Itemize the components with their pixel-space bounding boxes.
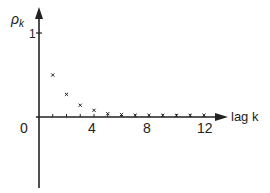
data-point-x-marker <box>79 104 82 107</box>
x-tick-label-8: 8 <box>143 120 151 136</box>
x-tick-label-4: 4 <box>88 120 96 136</box>
x-axis-arrow-icon <box>215 113 228 121</box>
data-point-x-marker <box>51 73 54 76</box>
data-points <box>51 73 205 117</box>
origin-label: 0 <box>20 120 28 136</box>
y-tick-label-1: 1 <box>29 27 36 41</box>
x-axis-label: lag k <box>231 109 259 124</box>
data-point-x-marker <box>65 93 68 96</box>
data-point-x-marker <box>92 109 95 112</box>
y-axis-label: ρk <box>10 11 25 29</box>
y-axis-arrow-icon <box>35 7 43 19</box>
x-tick-label-12: 12 <box>197 120 213 136</box>
acf-chart: ρk 1 0 4 8 12 lag k <box>0 0 270 193</box>
